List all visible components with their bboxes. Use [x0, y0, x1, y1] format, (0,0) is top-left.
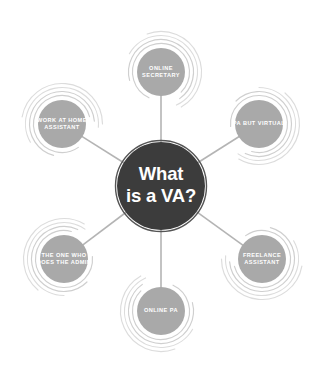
node-label-line: FREELANCE	[243, 252, 281, 258]
mind-map-diagram: ONLINESECRETARYPA BUT VIRTUALFREELANCEAS…	[0, 0, 322, 369]
node-the-one-who-does-the-admin[interactable]: THE ONE WHODOES THE ADMIN	[24, 219, 93, 296]
mind-map-canvas: ONLINESECRETARYPA BUT VIRTUALFREELANCEAS…	[0, 0, 322, 369]
node-work-at-home-assistant[interactable]: WORK AT HOMEASSISTANT	[22, 84, 102, 156]
node-label-line: PA BUT VIRTUAL	[233, 120, 285, 126]
node-label-line: ONLINE PA	[144, 307, 178, 313]
node-label-line: ONLINE	[149, 65, 173, 71]
node-label-line: DOES THE ADMIN	[37, 259, 92, 265]
node-label-line: ASSISTANT	[44, 124, 79, 130]
center-label-line: is a VA?	[126, 185, 196, 206]
node-online-secretary[interactable]: ONLINESECRETARY	[129, 32, 202, 108]
connector-pa-but-virtual	[196, 136, 240, 164]
connector-work-at-home-assistant	[81, 136, 126, 164]
node-label-line: WORK AT HOME	[37, 117, 87, 123]
node-label-line: SECRETARY	[142, 72, 180, 78]
connector-the-one-who-does-the-admin	[82, 211, 128, 246]
node-label-line: ASSISTANT	[244, 259, 279, 265]
node-online-pa[interactable]: ONLINE PA	[121, 276, 194, 352]
node-pa-but-virtual[interactable]: PA BUT VIRTUAL	[231, 88, 300, 165]
node-label-line: THE ONE WHO	[41, 252, 86, 258]
center-node-group[interactable]: Whatis a VA?	[116, 141, 207, 232]
center-label-line: What	[139, 163, 183, 184]
connector-freelance-assistant	[195, 211, 244, 247]
